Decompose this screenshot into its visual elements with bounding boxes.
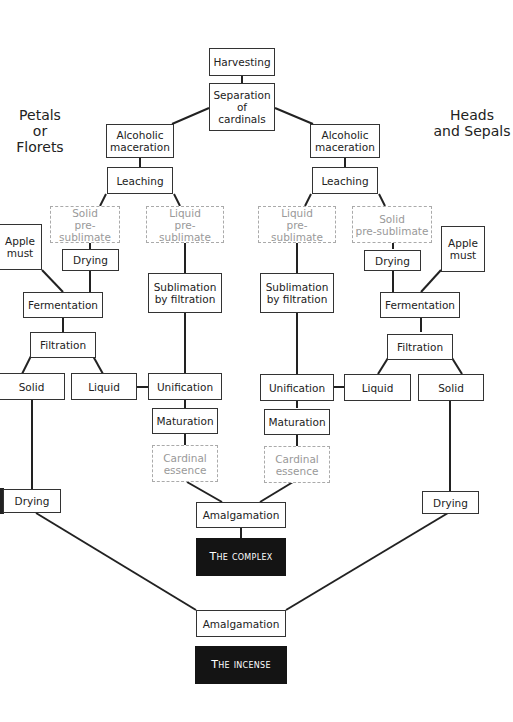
node-label: Amalgamation <box>203 509 280 521</box>
node-label: Solid <box>438 382 464 394</box>
node-left-sublimation-by-filtration: Sublimation by filtration <box>148 273 222 313</box>
node-label: Liquid <box>281 207 313 219</box>
node-right-fermentation: Fermentation <box>380 292 460 318</box>
node-right-cardinal-essence: Cardinal essence <box>264 446 330 483</box>
node-right-sublimation-by-filtration: Sublimation by filtration <box>260 273 334 313</box>
node-label: Fermentation <box>385 299 455 311</box>
node-label: Filtration <box>397 341 443 353</box>
node-left-maturation: Maturation <box>152 408 218 434</box>
side-label-petals: Petals or Florets <box>10 107 70 155</box>
node-left-liquid: Liquid <box>71 373 137 400</box>
node-label: Solid <box>19 381 45 393</box>
node-label: must <box>450 249 476 261</box>
node-label: Fermentation <box>28 299 98 311</box>
side-label-line: Heads <box>432 107 512 123</box>
node-label: Apple <box>5 235 35 247</box>
node-right-filtration: Filtration <box>387 334 453 360</box>
node-right-liquid: Liquid <box>344 374 411 401</box>
node-left-drying-bottom: Drying <box>3 489 61 513</box>
node-label: Sublimation <box>266 281 329 293</box>
node-label: Liquid <box>88 381 120 393</box>
node-label: Maturation <box>156 415 213 427</box>
node-label: essence <box>276 465 319 477</box>
node-left-unification: Unification <box>148 373 222 400</box>
node-label: Unification <box>157 381 213 393</box>
node-label: Cardinal <box>163 452 207 464</box>
node-label: pre-sublimate <box>261 219 333 243</box>
node-label: The incense <box>211 659 271 671</box>
node-amalgamation-2: Amalgamation <box>196 610 286 637</box>
node-left-leaching: Leaching <box>107 167 173 194</box>
node-label: Solid <box>379 213 405 225</box>
node-left-filtration: Filtration <box>30 332 96 358</box>
node-harvesting: Harvesting <box>209 48 275 76</box>
node-label: Drying <box>15 495 50 507</box>
side-label-line: and Sepals <box>432 123 512 139</box>
flowchart-canvas: Petals or Florets Heads and Sepals Harve… <box>0 0 513 722</box>
node-left-alcoholic-maceration: Alcoholic maceration <box>106 124 174 158</box>
node-label: by filtration <box>267 293 328 305</box>
node-left-apple-must: Apple must <box>0 224 42 270</box>
node-right-unification: Unification <box>260 374 334 401</box>
node-right-solid: Solid <box>418 374 484 401</box>
node-label: of <box>237 101 247 113</box>
node-label: Drying <box>433 497 468 509</box>
node-label: Sublimation <box>154 281 217 293</box>
node-label: Solid <box>72 207 98 219</box>
node-right-drying: Drying <box>364 250 421 271</box>
side-label-line: Petals <box>10 107 70 123</box>
node-amalgamation-1: Amalgamation <box>196 502 286 528</box>
node-label: by filtration <box>155 293 216 305</box>
node-left-drying: Drying <box>62 249 119 271</box>
node-label: Amalgamation <box>203 618 280 630</box>
node-label: maceration <box>110 141 170 153</box>
node-label: Harvesting <box>213 56 270 68</box>
node-left-fermentation: Fermentation <box>23 292 103 318</box>
node-left-solid-pre-sublimate: Solid pre-sublimate <box>50 206 120 243</box>
node-label: pre-sublimate <box>53 219 117 243</box>
node-label: essence <box>164 464 207 476</box>
node-label: Separation <box>213 89 270 101</box>
node-label: Drying <box>73 254 108 266</box>
node-label: cardinals <box>218 113 265 125</box>
node-label: pre-sublimate <box>356 225 429 237</box>
node-left-liquid-pre-sublimate: Liquid pre-sublimate <box>146 206 224 243</box>
node-right-leaching: Leaching <box>312 167 378 194</box>
node-label: The complex <box>209 551 272 563</box>
node-the-incense: The incense <box>195 646 287 684</box>
node-label: Alcoholic <box>322 129 369 141</box>
node-right-solid-pre-sublimate: Solid pre-sublimate <box>352 206 432 243</box>
node-label: Leaching <box>321 175 368 187</box>
node-label: pre-sublimate <box>149 219 221 243</box>
node-label: Leaching <box>116 175 163 187</box>
node-right-alcoholic-maceration: Alcoholic maceration <box>310 124 380 158</box>
node-separation-of-cardinals: Separation of cardinals <box>209 83 275 131</box>
side-label-heads: Heads and Sepals <box>432 107 512 139</box>
node-label: maceration <box>315 141 375 153</box>
node-label: must <box>7 247 33 259</box>
node-label: Unification <box>269 382 325 394</box>
node-label: Apple <box>448 237 478 249</box>
node-label: Cardinal <box>275 453 319 465</box>
node-label: Maturation <box>268 416 325 428</box>
node-label: Liquid <box>169 207 201 219</box>
node-label: Drying <box>375 255 410 267</box>
node-left-cardinal-essence: Cardinal essence <box>152 445 218 482</box>
node-the-complex: The complex <box>196 538 286 576</box>
node-right-maturation: Maturation <box>264 409 330 435</box>
node-right-liquid-pre-sublimate: Liquid pre-sublimate <box>258 206 336 243</box>
node-left-solid: Solid <box>0 373 65 400</box>
side-label-line: or Florets <box>10 123 70 155</box>
node-label: Filtration <box>40 339 86 351</box>
node-label: Alcoholic <box>117 129 164 141</box>
node-label: Liquid <box>362 382 394 394</box>
node-right-apple-must: Apple must <box>441 226 485 272</box>
node-right-drying-bottom: Drying <box>422 491 479 514</box>
